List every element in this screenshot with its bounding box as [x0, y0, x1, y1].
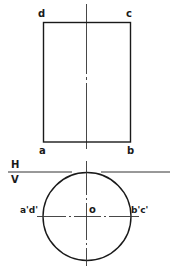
- front-view-rectangle: [44, 23, 131, 143]
- label-b: b: [127, 145, 134, 156]
- label-h: H: [11, 159, 19, 170]
- label-v: V: [11, 174, 19, 185]
- label-a: a: [39, 145, 46, 156]
- label-c: c: [126, 8, 132, 19]
- label-ad-prime: a'd': [20, 205, 38, 215]
- projection-diagram: d c a b H V o a'd' b'c': [0, 0, 179, 271]
- label-d: d: [38, 8, 45, 19]
- label-bc-prime: b'c': [131, 205, 148, 215]
- label-o: o: [89, 204, 96, 215]
